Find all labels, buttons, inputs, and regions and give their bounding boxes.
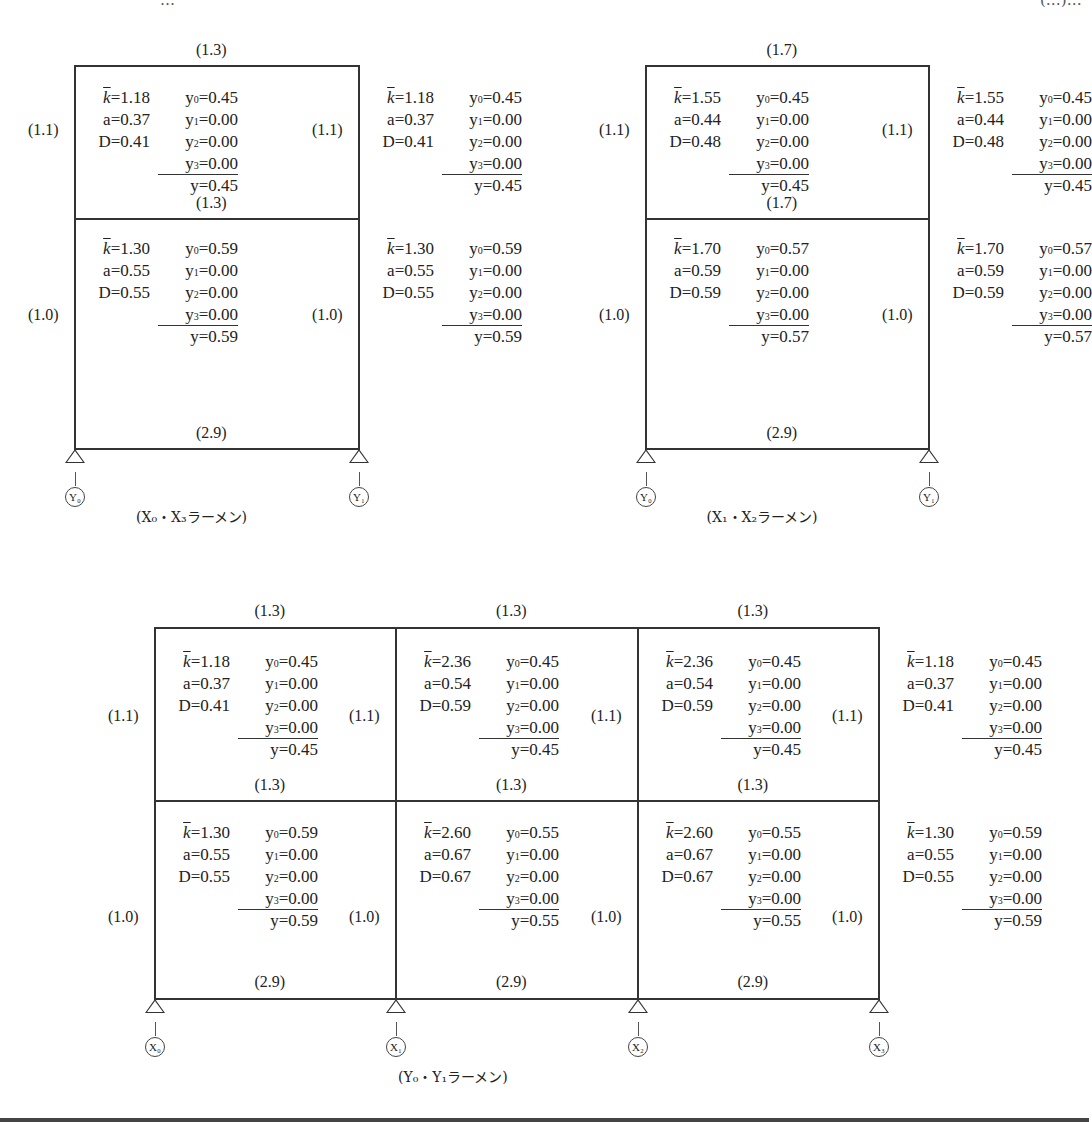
base-beam xyxy=(645,448,930,450)
left-values xyxy=(80,153,158,175)
roof-beam-stiffness: (1.3) xyxy=(496,602,527,620)
eq: =0.67 xyxy=(674,867,713,886)
right-values: y=0.45 xyxy=(479,739,559,761)
y0-symbol: y xyxy=(265,823,274,842)
eq: =0.00 xyxy=(1053,154,1092,173)
eq: =0.67 xyxy=(432,845,471,864)
eq: =0.00 xyxy=(520,867,559,886)
left-values: D=0.41 xyxy=(80,131,158,153)
y1-symbol: y xyxy=(756,110,765,129)
right-values: y2=0.00 xyxy=(479,866,559,888)
right-values: y3=0.00 xyxy=(729,153,809,175)
eq: =0.55 xyxy=(520,823,559,842)
y-symbol: y xyxy=(190,327,199,346)
value-row: a=0.55y1=0.00 xyxy=(884,844,1042,866)
eq: =0.00 xyxy=(520,674,559,693)
eq: =0.00 xyxy=(762,845,801,864)
a-symbol: a xyxy=(103,261,111,280)
k-bar-symbol: k xyxy=(957,88,965,107)
eq: =1.70 xyxy=(965,239,1004,258)
eq: =2.36 xyxy=(432,652,471,671)
right-values: y2=0.00 xyxy=(479,695,559,717)
eq: =0.00 xyxy=(770,305,809,324)
left-values: a=0.59 xyxy=(651,260,729,282)
right-values: y1=0.00 xyxy=(479,844,559,866)
y3-symbol: y xyxy=(265,889,274,908)
lower-column-stiffness: (1.0) xyxy=(591,908,622,926)
eq: =0.00 xyxy=(1003,674,1042,693)
right-values: y2=0.00 xyxy=(721,695,801,717)
eq: =1.18 xyxy=(191,652,230,671)
value-row: D=0.41y2=0.00 xyxy=(80,131,238,153)
roof-beam-stiffness: (1.7) xyxy=(767,41,798,59)
roof-beam xyxy=(645,65,930,67)
value-row: k=2.60y0=0.55 xyxy=(401,822,559,844)
grid-axis-label: Y₀ xyxy=(636,487,656,507)
y2-symbol: y xyxy=(506,696,515,715)
support-triangle-icon xyxy=(349,449,369,463)
value-row: y3=0.00 xyxy=(643,717,801,739)
right-values: y=0.45 xyxy=(962,739,1042,761)
left-values xyxy=(160,717,238,739)
lower-column-stiffness: (1.0) xyxy=(108,908,139,926)
eq: =1.18 xyxy=(111,88,150,107)
d-symbol: D xyxy=(952,283,964,302)
eq: =0.00 xyxy=(483,110,522,129)
left-values: D=0.59 xyxy=(401,695,479,717)
y0-symbol: y xyxy=(469,239,478,258)
eq: =0.37 xyxy=(915,674,954,693)
y0-symbol: y xyxy=(1039,239,1048,258)
a-symbol: a xyxy=(666,674,674,693)
base-beam-stiffness: (2.9) xyxy=(767,424,798,442)
header-fragment-right: (…)… xyxy=(1040,0,1082,9)
value-row: a=0.55y1=0.00 xyxy=(364,260,522,282)
left-values: a=0.67 xyxy=(643,844,721,866)
left-values: D=0.41 xyxy=(364,131,442,153)
left-values: k=1.18 xyxy=(884,651,962,673)
right-values: y2=0.00 xyxy=(962,866,1042,888)
lower-story-values: k=1.70y0=0.57a=0.59y1=0.00D=0.59y2=0.00y… xyxy=(934,238,1092,348)
left-values xyxy=(934,175,1012,197)
grid-line-tick xyxy=(646,472,647,486)
grid-line-tick xyxy=(396,1022,397,1036)
right-values: y=0.57 xyxy=(1012,326,1092,348)
d-symbol: D xyxy=(382,132,394,151)
y2-symbol: y xyxy=(756,132,765,151)
value-row: k=1.70y0=0.57 xyxy=(934,238,1092,260)
eq: =0.41 xyxy=(191,696,230,715)
eq: =0.00 xyxy=(199,154,238,173)
eq: =0.00 xyxy=(520,718,559,737)
eq: =1.18 xyxy=(915,652,954,671)
right-values: y3=0.00 xyxy=(1012,153,1092,175)
y0-symbol: y xyxy=(756,239,765,258)
y3-symbol: y xyxy=(506,889,515,908)
left-values xyxy=(364,153,442,175)
y-symbol: y xyxy=(994,740,1003,759)
right-values: y3=0.00 xyxy=(238,888,318,910)
upper-story-values: k=1.55y0=0.45a=0.44y1=0.00D=0.48y2=0.00y… xyxy=(934,87,1092,197)
right-values: y=0.59 xyxy=(962,910,1042,932)
value-row: y3=0.00 xyxy=(80,304,238,326)
y1-symbol: y xyxy=(265,845,274,864)
eq: =0.54 xyxy=(432,674,471,693)
y3-symbol: y xyxy=(989,889,998,908)
eq: =0.00 xyxy=(1053,261,1092,280)
y1-symbol: y xyxy=(748,845,757,864)
right-values: y0=0.45 xyxy=(962,651,1042,673)
right-values: y0=0.45 xyxy=(721,651,801,673)
k-bar-symbol: k xyxy=(103,239,111,258)
right-values: y1=0.00 xyxy=(1012,109,1092,131)
value-row: y3=0.00 xyxy=(80,153,238,175)
value-row: k=2.36y0=0.45 xyxy=(401,651,559,673)
y2-symbol: y xyxy=(469,283,478,302)
column xyxy=(154,627,156,998)
y0-symbol: y xyxy=(506,823,515,842)
value-row: y=0.55 xyxy=(643,910,801,932)
eq: =0.55 xyxy=(395,261,434,280)
column-left xyxy=(74,65,76,448)
value-row: a=0.37y1=0.00 xyxy=(80,109,238,131)
roof-beam-stiffness: (1.3) xyxy=(255,602,286,620)
eq: =2.60 xyxy=(432,823,471,842)
left-values xyxy=(884,910,962,932)
value-row: k=2.60y0=0.55 xyxy=(643,822,801,844)
